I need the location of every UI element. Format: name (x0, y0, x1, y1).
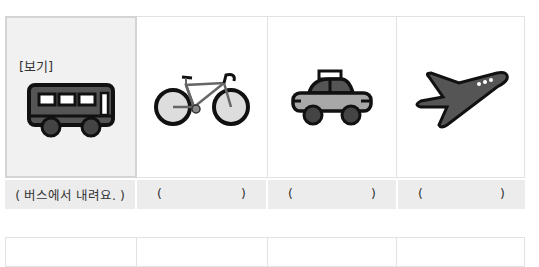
answer-blank-taxi[interactable]: ( ) (268, 180, 396, 209)
example-tag: [보기] (19, 56, 53, 75)
card-airplane (397, 16, 525, 178)
card-taxi (268, 16, 397, 178)
card-empty (268, 237, 397, 267)
answer-blank-airplane[interactable]: ( ) (398, 180, 525, 209)
close-paren: ) (241, 186, 246, 201)
bus-icon (25, 82, 117, 138)
example-answer: ( 버스에서 내려요. ) (5, 180, 135, 209)
close-paren: ) (500, 186, 505, 201)
card-empty (137, 237, 268, 267)
open-paren: ( (418, 186, 423, 201)
vehicle-card-row: [보기] (5, 16, 525, 178)
example-card-bus: [보기] (5, 16, 137, 178)
taxi-icon (289, 69, 375, 129)
close-paren: ) (371, 186, 376, 201)
card-empty (397, 237, 525, 267)
card-empty (5, 237, 137, 267)
open-paren: ( (157, 186, 162, 201)
answer-blank-bicycle[interactable]: ( ) (137, 180, 266, 209)
open-paren: ( (288, 186, 293, 201)
card-bicycle (137, 16, 268, 178)
airplane-icon (413, 67, 509, 131)
next-card-row (5, 237, 525, 267)
bicycle-icon (152, 69, 252, 129)
answer-row: ( 버스에서 내려요. ) ( ) ( ) ( ) (5, 180, 525, 209)
